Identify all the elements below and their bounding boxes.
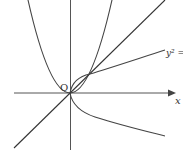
curve-label-y-squared: y² =: [165, 48, 183, 58]
x-axis-label: x: [175, 95, 181, 106]
x-axis: [14, 90, 176, 97]
graph-canvas: O y² = x: [0, 0, 183, 157]
sideways-parabola-lower-branch: [70, 93, 165, 136]
sideways-parabola-upper-branch: [70, 50, 165, 93]
origin-label: O: [60, 82, 68, 93]
